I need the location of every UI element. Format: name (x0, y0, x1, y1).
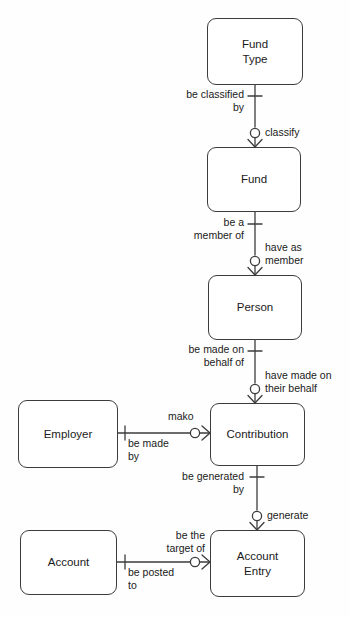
entity-label-fund-type: Fund Type (242, 37, 268, 65)
entity-label-fund: Fund (241, 172, 267, 186)
connector-person-contribution (248, 340, 262, 403)
rel-label-be-posted-to: be posted to (128, 566, 198, 592)
entity-label-person: Person (237, 300, 273, 314)
entity-person[interactable]: Person (208, 275, 302, 340)
rel-label-classify: classify (265, 126, 345, 139)
rel-label-be-classified-by: be classified by (150, 88, 244, 114)
entity-contribution[interactable]: Contribution (210, 403, 305, 466)
rel-label-generate: generate (267, 509, 347, 522)
entity-label-account-entry: Account Entry (237, 549, 279, 577)
entity-label-account: Account (48, 555, 90, 569)
connector-fund-person (248, 212, 262, 275)
entity-fund[interactable]: Fund (207, 147, 301, 212)
entity-fund-type[interactable]: Fund Type (207, 18, 303, 85)
rel-label-be-made-by: be made by (128, 437, 198, 463)
connector-contribution-accountentry (250, 466, 264, 530)
entity-label-contribution: Contribution (226, 427, 288, 441)
rel-label-be-made-on-behalf-of: be made on behalf of (148, 343, 244, 369)
er-diagram-canvas: Fund Type Fund Person Contribution Emplo… (0, 0, 350, 617)
rel-label-be-the-target-of: be the target of (145, 529, 205, 555)
entity-label-employer: Employer (44, 427, 93, 441)
entity-account-entry[interactable]: Account Entry (210, 530, 305, 597)
entity-employer[interactable]: Employer (18, 400, 118, 468)
rel-label-mako: mako (168, 410, 218, 423)
connector-fundtype-fund (248, 85, 262, 147)
entity-account[interactable]: Account (20, 530, 117, 595)
rel-label-be-a-member-of: be a member of (150, 216, 244, 242)
rel-label-have-as-member: have as member (265, 241, 345, 267)
rel-label-be-generated-by: be generated by (146, 470, 244, 496)
rel-label-have-made-on-their-behalf: have made on their behalf (265, 369, 350, 395)
